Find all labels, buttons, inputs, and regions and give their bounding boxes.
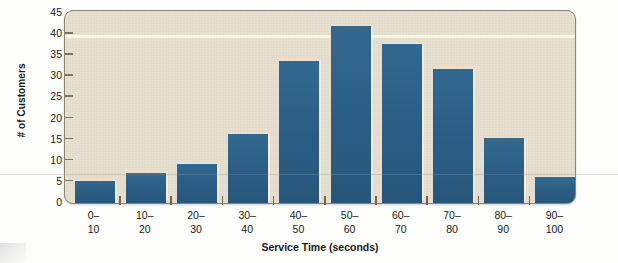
- x-axis-tick-mark: [170, 196, 172, 205]
- y-axis-tick-mark: [65, 74, 73, 76]
- x-axis-tick-label: 80–90: [478, 208, 529, 236]
- x-axis-tick-mark: [426, 196, 428, 205]
- y-axis-tick-marks: [65, 12, 74, 202]
- y-axis-tick-mark: [65, 117, 73, 119]
- x-axis-title: Service Time (seconds): [64, 241, 576, 253]
- x-axis-tick-mark: [478, 196, 480, 205]
- y-axis-tick-label: 25: [30, 90, 62, 102]
- x-axis-tick-mark: [222, 196, 224, 205]
- y-axis-tick-mark: [65, 95, 73, 97]
- y-axis-tick-label: 0: [30, 196, 62, 208]
- x-axis-tick-label: 60–70: [375, 208, 426, 236]
- x-axis-tick-mark: [375, 196, 377, 205]
- bar: [228, 134, 268, 203]
- y-axis-tick-label: 30: [30, 69, 62, 81]
- scan-corner-smudge: [0, 243, 26, 263]
- bar: [484, 138, 524, 203]
- x-axis-tick-mark: [119, 196, 121, 205]
- y-axis-tick-label: 10: [30, 154, 62, 166]
- y-axis-title-text: # of Customers: [16, 63, 27, 137]
- x-axis-tick-label: 20–30: [170, 208, 221, 236]
- x-axis-tick-mark: [529, 196, 531, 205]
- y-axis-tick-label: 20: [30, 112, 62, 124]
- x-axis-tick-label: 50–60: [324, 208, 375, 236]
- y-axis-tick-label: 40: [30, 27, 62, 39]
- y-axis-tick-mark: [65, 53, 73, 55]
- bar-series: [65, 11, 575, 203]
- x-axis-tick-marks: [64, 196, 576, 206]
- x-axis-tick-mark: [273, 196, 275, 205]
- y-axis-tick-mark: [65, 159, 73, 161]
- bar: [382, 44, 422, 204]
- y-axis-tick-mark: [65, 32, 73, 34]
- x-axis-labels: 0–1010–2020–3030–4040–5050–6060–7070–808…: [64, 208, 576, 242]
- plot-area: [64, 10, 576, 204]
- bar: [433, 69, 473, 203]
- y-axis: 051015202530354045: [30, 12, 62, 202]
- histogram-chart: # of Customers 051015202530354045 0–1010…: [0, 0, 618, 263]
- y-axis-tick-label: 15: [30, 133, 62, 145]
- x-axis-tick-mark: [324, 196, 326, 205]
- y-axis-tick-label: 35: [30, 48, 62, 60]
- x-axis-tick-label: 70–80: [426, 208, 477, 236]
- bar: [279, 61, 319, 203]
- y-axis-tick-label: 45: [30, 6, 62, 18]
- x-axis-tick-label: 40–50: [273, 208, 324, 236]
- y-axis-tick-label: 5: [30, 175, 62, 187]
- y-axis-tick-mark: [65, 180, 73, 182]
- y-axis-tick-mark: [65, 138, 73, 140]
- x-axis-tick-label: 30–40: [222, 208, 273, 236]
- x-axis-tick-label: 10–20: [119, 208, 170, 236]
- bar: [331, 26, 371, 203]
- x-axis-tick-label: 0–10: [68, 208, 119, 236]
- x-axis-tick-label: 90–100: [529, 208, 580, 236]
